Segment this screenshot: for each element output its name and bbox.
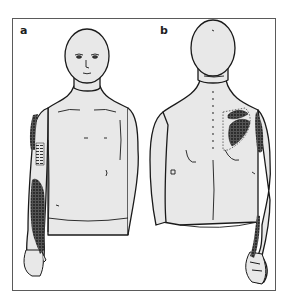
pain-region-upper-arm-hatched [36,143,44,165]
anterior-hand [24,250,46,276]
anatomical-illustration [0,0,289,300]
posterior-hand [246,252,266,284]
posterior-figure [150,20,270,283]
